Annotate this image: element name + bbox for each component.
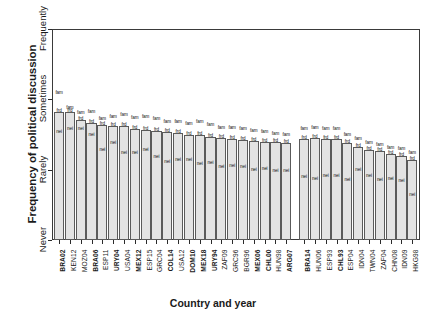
marker-nei-HUN98: nei <box>273 168 279 173</box>
marker-frd-ZAF09: frd <box>219 134 224 139</box>
bar-BRA06 <box>86 123 96 240</box>
marker-nei-BGR96: nei <box>240 164 246 169</box>
marker-frd-CHN08: frd <box>388 150 393 155</box>
bar-ARG07 <box>281 143 291 240</box>
x-tick-mark <box>113 240 114 244</box>
marker-frd-HKG98: frd <box>410 156 415 161</box>
x-tick-mark <box>178 240 179 244</box>
marker-fam-IDN04: fam <box>354 136 361 141</box>
marker-fam-MEX12: fam <box>131 115 138 120</box>
x-tick-mark <box>124 240 125 244</box>
x-tick-mark <box>221 240 222 244</box>
bar-ESP93 <box>321 139 331 240</box>
marker-fam-ESP93: fam <box>322 126 329 131</box>
marker-fam-BRA06: fam <box>88 109 95 114</box>
y-tick-label-frequently: Frequently <box>37 0 48 89</box>
marker-fam-URY94: fam <box>207 122 214 127</box>
marker-nei-ESP11: nei <box>99 147 105 152</box>
marker-nei-MEX18: nei <box>197 161 203 166</box>
marker-nei-URY94: nei <box>208 160 214 165</box>
x-tick-mark <box>254 240 255 244</box>
x-axis-title: Country and year <box>0 297 426 309</box>
marker-nei-IDN09: nei <box>399 178 405 183</box>
marker-fam-ESP04: fam <box>344 132 351 137</box>
marker-fam-COL14: fam <box>164 119 171 124</box>
marker-fam-BRA14: fam <box>300 126 307 131</box>
marker-frd-ESP15: frd <box>143 126 148 131</box>
marker-frd-GRC04: frd <box>154 127 159 132</box>
x-tick-mark <box>189 240 190 244</box>
marker-nei-COL14: nei <box>164 159 170 164</box>
marker-nei-USA04: nei <box>121 150 127 155</box>
marker-fam-MEX18: fam <box>196 119 203 124</box>
marker-frd-MEX06: frd <box>251 137 256 142</box>
x-tick-mark <box>156 240 157 244</box>
x-tick-mark <box>70 240 71 244</box>
marker-nei-CHL93: nei <box>334 173 340 178</box>
x-tick-mark <box>135 240 136 244</box>
bar-COL14 <box>162 132 172 240</box>
x-tick-mark <box>391 240 392 244</box>
plot-area: famfrdneifamfrdneifamfrdneifamfrdneifamf… <box>52 29 420 240</box>
marker-frd-TWN04: frd <box>366 146 371 151</box>
x-tick-mark <box>326 240 327 244</box>
x-tick-mark <box>304 240 305 244</box>
bar-ZAF09 <box>216 138 226 240</box>
marker-frd-BRA06: frd <box>89 119 94 124</box>
marker-nei-KEN12: nei <box>67 126 73 131</box>
x-tick-mark <box>243 240 244 244</box>
bar-MEX18 <box>195 135 205 240</box>
x-tick-mark <box>59 240 60 244</box>
marker-frd-URY04: frd <box>111 122 116 127</box>
political-discussion-bar-chart: Frequency of political discussion NeverR… <box>0 0 426 319</box>
marker-frd-ZAF04: frd <box>377 147 382 152</box>
marker-nei-MEX12: nei <box>132 150 138 155</box>
marker-fam-HUN98: fam <box>272 131 279 136</box>
bar-MEX12 <box>130 129 140 240</box>
x-tick-mark <box>286 240 287 244</box>
marker-fam-MEX06: fam <box>250 128 257 133</box>
marker-frd-URY94: frd <box>208 133 213 138</box>
marker-frd-MEX12: frd <box>132 125 137 130</box>
marker-frd-ESP04: frd <box>345 139 350 144</box>
marker-fam-CHL00: fam <box>261 129 268 134</box>
marker-nei-ESP04: nei <box>344 177 350 182</box>
marker-nei-CHN08: nei <box>388 176 394 181</box>
marker-nei-TWN04: nei <box>366 173 372 178</box>
bar-GRC96 <box>227 139 237 240</box>
marker-frd-BRA14: frd <box>302 135 307 140</box>
marker-nei-HKG98: nei <box>409 192 415 197</box>
bar-MEX06 <box>249 141 259 240</box>
bar-HKG98 <box>407 160 417 240</box>
x-tick-mark <box>380 240 381 244</box>
marker-frd-GRC96: frd <box>230 135 235 140</box>
marker-fam-TWN04: fam <box>365 140 372 145</box>
marker-frd-BGR96: frd <box>240 136 245 141</box>
marker-nei-GRC04: nei <box>154 154 160 159</box>
marker-nei-ZAF09: nei <box>218 164 224 169</box>
marker-nei-ESP15: nei <box>143 147 149 152</box>
bar-DOM10 <box>184 135 194 241</box>
marker-nei-URY04: nei <box>110 140 116 145</box>
marker-frd-ARG07: frd <box>284 139 289 144</box>
marker-frd-COL14: frd <box>165 128 170 133</box>
marker-frd-BRA02: frd <box>57 108 62 113</box>
bar-ESP04 <box>342 143 352 240</box>
marker-nei-GRC96: nei <box>229 163 235 168</box>
marker-frd-MEX18: frd <box>197 131 202 136</box>
bar-MOZ04 <box>76 120 86 240</box>
x-tick-mark <box>337 240 338 244</box>
marker-fam-HUN06: fam <box>311 125 318 130</box>
marker-nei-BRA14: nei <box>301 174 307 179</box>
marker-fam-CHN08: fam <box>387 145 394 150</box>
marker-fam-CHL93: fam <box>333 126 340 131</box>
marker-nei-IDN04: nei <box>355 167 361 172</box>
marker-nei-BRA06: nei <box>89 132 95 137</box>
bar-USA12 <box>173 133 183 240</box>
x-tick-mark <box>200 240 201 244</box>
bar-HUN06 <box>310 138 320 240</box>
marker-fam-ZAF09: fam <box>218 125 225 130</box>
marker-fam-GRC96: fam <box>228 125 235 130</box>
marker-frd-IDN04: frd <box>356 143 361 148</box>
x-tick-mark <box>102 240 103 244</box>
